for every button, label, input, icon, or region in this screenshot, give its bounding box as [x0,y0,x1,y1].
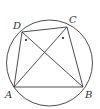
cyclic-quadrilateral-diagram: A B C D [0,0,100,109]
vertex-label-d: D [12,20,21,31]
circumcircle [7,20,93,106]
diagonal-bd [22,32,83,87]
vertex-label-c: C [69,14,77,25]
angle-mark-d [25,39,27,41]
segment-bc [67,27,83,87]
segment-cd [22,27,67,32]
geometry-figure: A B C D [0,0,100,109]
angle-mark-c [62,37,64,39]
diagonal-ac [14,27,67,87]
vertex-label-b: B [84,89,92,100]
vertex-label-a: A [4,89,12,100]
